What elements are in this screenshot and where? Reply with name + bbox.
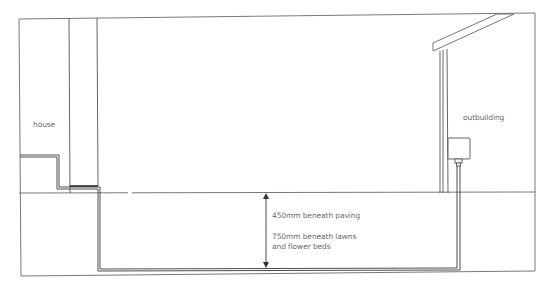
depth-lawns-label-line1: 750mm beneath lawns (272, 232, 356, 243)
outbuilding-roof (433, 14, 514, 51)
depth-arrow (263, 193, 269, 268)
outbuilding-label: outbuilding (463, 113, 504, 124)
depth-lawns-label-line2: and flower beds (272, 242, 331, 253)
house-label: house (33, 120, 55, 131)
house-wall (69, 18, 98, 193)
cable-run (20, 155, 460, 271)
ground-line (19, 192, 535, 193)
depth-paving-label: 450mm beneath paving (272, 211, 360, 222)
outbuilding-post (440, 49, 448, 193)
junction-box (448, 138, 470, 166)
